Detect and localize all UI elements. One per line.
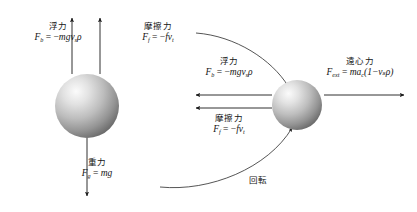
- label-friction-mid: 摩擦力 Ff = −fvt: [176, 114, 282, 135]
- label-centrifugal-name: 遠心力: [306, 57, 414, 66]
- label-rotation-name: 回転: [236, 176, 280, 185]
- label-buoyancy-left-formula: Fb = −mgvsρ: [6, 33, 110, 43]
- label-centrifugal-formula: Fext = mac(1−vₛρ): [306, 68, 414, 78]
- label-buoyancy-left-name: 浮力: [6, 22, 110, 31]
- label-buoyancy-left: 浮力 Fb = −mgvsρ: [6, 22, 110, 43]
- label-centrifugal: 遠心力 Fext = mac(1−vₛρ): [306, 57, 414, 78]
- label-buoyancy-mid-formula: Fb = −mgvsρ: [176, 68, 282, 78]
- label-friction-left: 摩擦力 Ff = −fvt: [112, 22, 204, 43]
- physics-force-diagram: 浮力 Fb = −mgvsρ 摩擦力 Ff = −fvt 重力 Fg = mg …: [0, 0, 417, 212]
- label-gravity-name: 重力: [52, 158, 142, 167]
- label-friction-mid-name: 摩擦力: [176, 114, 282, 123]
- settling-sphere: [55, 74, 119, 138]
- label-rotation: 回転: [236, 176, 280, 185]
- label-gravity-formula: Fg = mg: [52, 169, 142, 179]
- label-buoyancy-mid-name: 浮力: [176, 57, 282, 66]
- label-friction-mid-formula: Ff = −fvt: [176, 125, 282, 135]
- label-gravity: 重力 Fg = mg: [52, 158, 142, 179]
- label-friction-left-formula: Ff = −fvt: [112, 33, 204, 43]
- label-buoyancy-mid: 浮力 Fb = −mgvsρ: [176, 57, 282, 78]
- label-friction-left-name: 摩擦力: [112, 22, 204, 31]
